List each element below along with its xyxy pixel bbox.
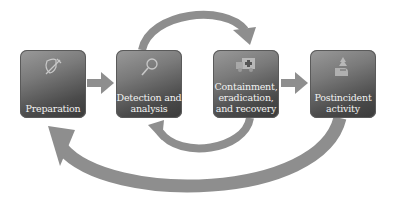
ambulance-icon: [213, 56, 279, 78]
stage-postincident-activity: Postincident activity: [310, 50, 376, 118]
arrow-detection-to-containment: [142, 15, 256, 50]
stage-label: Containment, eradication, and recovery: [213, 81, 279, 114]
shield-sword-icon: [20, 56, 86, 78]
arrow-containment-to-detection: [148, 118, 250, 148]
road-tree-icon: [310, 56, 376, 78]
arrow-containment-to-postincident: [281, 72, 308, 94]
magnifier-icon: [116, 56, 182, 78]
stage-label: Detection and analysis: [116, 92, 182, 114]
stage-containment-eradication-recovery: Containment, eradication, and recovery: [213, 50, 279, 118]
stage-preparation: Preparation: [20, 50, 86, 118]
stage-detection-and-analysis: Detection and analysis: [116, 50, 182, 118]
arrow-preparation-to-detection: [87, 72, 114, 94]
stage-label: Postincident activity: [310, 92, 376, 114]
stage-label: Preparation: [20, 103, 86, 114]
